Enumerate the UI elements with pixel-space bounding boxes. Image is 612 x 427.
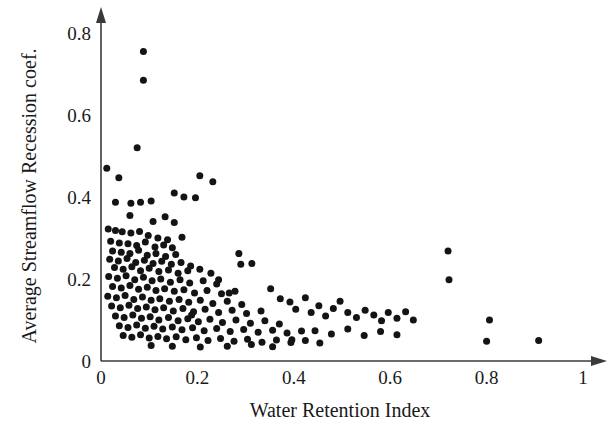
data-point [273,337,280,344]
data-point [286,298,293,305]
data-point [261,317,268,324]
data-point [141,257,148,264]
data-point [337,298,344,305]
data-point [165,314,172,321]
data-point [247,320,254,327]
data-point [180,286,187,293]
data-point [152,287,159,294]
data-point [224,298,231,305]
data-point [145,232,152,239]
data-point [269,327,276,334]
data-point [288,336,295,343]
data-point [179,305,186,312]
data-point [156,295,163,302]
data-point [159,326,166,333]
y-tick-label: 0 [82,351,92,372]
data-point [169,343,176,350]
data-point [353,314,360,321]
data-point [191,289,198,296]
scatter-chart: 00.20.40.60.81 00.20.40.60.8 Water Reten… [0,0,612,427]
data-point [124,324,131,331]
data-point [106,256,113,263]
data-point [258,339,265,346]
data-point [229,307,236,314]
data-point [161,285,168,292]
data-point [206,316,213,323]
data-point [146,335,153,342]
data-point [302,294,309,301]
data-point [112,227,119,234]
data-point [123,272,130,279]
data-point [224,343,231,350]
data-point [377,328,384,335]
data-point [197,297,204,304]
data-point [154,235,161,242]
data-point [215,309,222,316]
data-point [126,282,133,289]
data-point [209,178,216,185]
data-point [205,337,212,344]
data-point [119,228,126,235]
data-point [410,317,417,324]
data-point [218,290,225,297]
y-tick-label: 0.4 [67,187,91,208]
data-point [182,336,189,343]
data-point [385,309,392,316]
data-point [196,172,203,179]
data-point [215,276,222,283]
data-point [155,268,162,275]
y-tick-label: 0.2 [67,269,91,290]
data-point [103,165,110,172]
data-point [231,338,238,345]
data-point [178,259,185,266]
data-point [172,251,179,258]
data-point [137,331,144,338]
data-point [109,283,116,290]
data-point [143,303,150,310]
data-point [344,309,351,316]
x-axis-arrowhead [591,356,607,366]
data-point [171,288,178,295]
data-points-group [103,48,542,351]
data-point [197,344,204,351]
data-point [146,265,153,272]
y-axis-title: Average Streamflow Recession coef. [18,48,41,343]
data-point [238,301,245,308]
data-point [284,330,291,337]
data-point [219,319,226,326]
data-point [226,289,233,296]
data-point [148,342,155,349]
data-point [217,335,224,342]
x-tick-label: 0.6 [378,367,402,388]
x-tick-label: 0.2 [186,367,210,388]
data-point [112,199,119,206]
x-axis-title: Water Retention Index [250,399,431,421]
data-point [232,317,239,324]
data-point [292,306,299,313]
data-point [207,270,214,277]
data-point [446,276,453,283]
data-point [118,249,125,256]
data-point [115,174,122,181]
data-point [113,294,120,301]
data-point [184,267,191,274]
data-point [111,264,118,271]
data-point [148,297,155,304]
data-point [133,321,140,328]
data-point [237,261,244,268]
data-point [114,275,121,282]
data-point [486,317,493,324]
data-point [201,327,208,334]
data-point [361,332,368,339]
data-point [147,313,154,320]
data-point [108,303,115,310]
data-point [227,328,234,335]
data-point [202,306,209,313]
data-point [180,194,187,201]
data-point [186,280,193,287]
data-point [140,77,147,84]
data-point [148,198,155,205]
data-point [240,326,247,333]
data-point [308,309,315,316]
data-point [150,218,157,225]
